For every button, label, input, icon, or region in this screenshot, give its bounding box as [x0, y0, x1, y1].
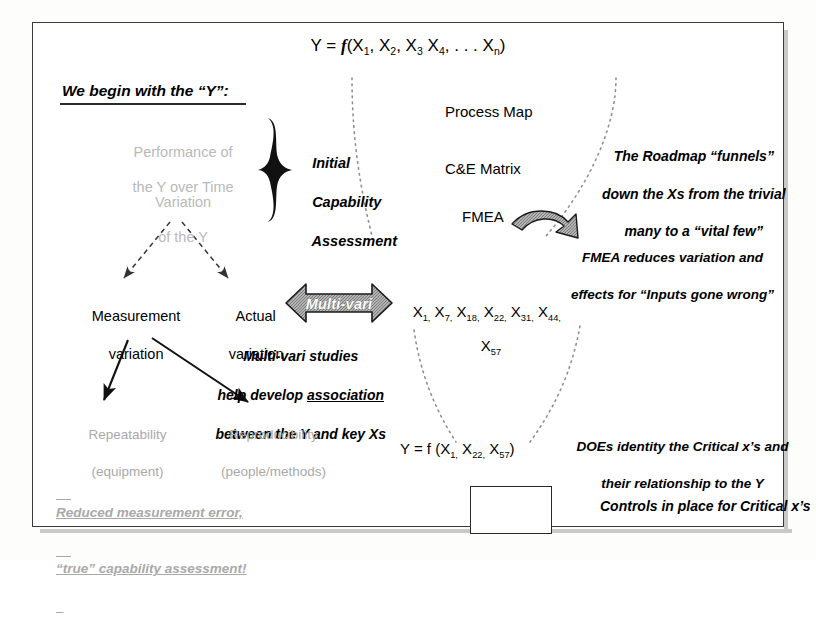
section-header-underline [60, 103, 246, 105]
bottom-equation: Y = f (X1, X22, X57) [400, 440, 515, 458]
initial-capability-line-2: Capability [312, 194, 381, 210]
reduced-line-1: Reduced measurement error, [56, 504, 247, 523]
label-process-map: Process Map [445, 103, 533, 121]
label-fmea: FMEA [462, 208, 504, 226]
actual-line-1: Actual [236, 308, 276, 324]
function-symbol: f [341, 36, 347, 55]
measurement-line-2: variation [109, 346, 164, 362]
multivari-note-line-2a: help develop [218, 387, 307, 403]
variation-line-1: Variation [155, 194, 211, 210]
annotation-reduced-measurement-error: Reduced measurement error, “true” capabi… [56, 466, 247, 617]
multivari-note-association: association [307, 387, 384, 403]
roadmap-line-2: down the Xs from the trivial [602, 186, 786, 202]
top-equation: Y = f(X1, X2, X3 X4, . . . Xn) [0, 36, 816, 57]
annotation-controls-in-place: Controls in place for Critical x’s [600, 498, 811, 515]
initial-capability-line-3: Assessment [312, 233, 397, 249]
doe-note-line-2: their relationship to the Y [601, 476, 764, 491]
label-variation-of-y: Variation of the Y [90, 176, 260, 264]
label-initial-capability-assessment: Initial Capability Assessment [296, 134, 397, 271]
fmea-note-line-1: FMEA reduces variation and [582, 250, 763, 265]
measurement-line-1: Measurement [92, 308, 181, 324]
label-ce-matrix: C&E Matrix [445, 160, 521, 178]
multi-vari-arrow-label: Multi-vari [296, 296, 382, 312]
multivari-note-line-1: Multi-vari studies [243, 348, 358, 364]
reduced-line-2: “true” capability assessment! [56, 560, 247, 579]
initial-capability-line-1: Initial [312, 155, 350, 171]
control-chart-thumbnail [470, 486, 552, 534]
fmea-note-line-2: effects for “Inputs gone wrong” [571, 287, 774, 302]
x-list-line-1: X1, X7, X18, X22, X31, X44, [413, 303, 561, 320]
doe-note-line-1: DOEs identity the Critical x’s and [576, 439, 788, 454]
roadmap-line-1: The Roadmap “funnels” [614, 148, 774, 164]
variation-line-2: of the Y [158, 229, 208, 245]
section-header-we-begin: We begin with the “Y”: [62, 82, 229, 101]
repeatability-line-1: Repeatability [88, 427, 166, 442]
reproducibility-line-1: Reproducibility [229, 427, 318, 442]
performance-line-1: Performance of [133, 144, 232, 160]
